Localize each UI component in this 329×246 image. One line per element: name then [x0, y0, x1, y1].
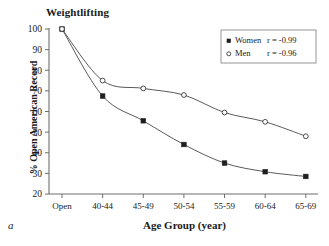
y-axis-ticks: 2030405060708090100 — [28, 24, 49, 199]
y-tick-label: 50 — [33, 128, 43, 138]
x-tick-label: Open — [52, 201, 72, 211]
y-tick-label: 90 — [33, 45, 43, 55]
x-tick-label: 40-44 — [92, 201, 113, 211]
data-point-men-50-54 — [182, 93, 187, 98]
data-point-women-50-54 — [182, 142, 187, 147]
y-tick-label: 40 — [33, 148, 43, 158]
data-point-men-55-59 — [222, 110, 227, 115]
y-tick-label: 80 — [33, 66, 43, 76]
data-point-men-Open — [60, 27, 65, 32]
legend-label-men: Men — [235, 48, 251, 58]
legend-marker-women — [227, 39, 231, 43]
chart-legend: Womenr = -0.99Menr = -0.96 — [221, 30, 316, 63]
plot-area: 2030405060708090100 Open40-4445-4950-545… — [0, 0, 329, 246]
y-tick-label: 60 — [33, 107, 43, 117]
x-tick-label: 45-49 — [133, 201, 154, 211]
y-tick-label: 30 — [33, 169, 43, 179]
data-point-women-60-64 — [263, 169, 268, 174]
x-tick-label: 60-64 — [255, 201, 276, 211]
legend-marker-men — [227, 52, 231, 56]
data-point-women-55-59 — [222, 161, 227, 166]
data-point-women-65-69 — [304, 174, 309, 179]
y-tick-label: 70 — [33, 86, 43, 96]
x-axis-ticks: Open40-4445-4950-5455-5960-6465-69 — [52, 194, 317, 211]
data-point-men-65-69 — [303, 134, 308, 139]
legend-stat-men: r = -0.96 — [267, 48, 297, 58]
x-tick-label: 50-54 — [173, 201, 194, 211]
data-point-men-40-44 — [100, 78, 105, 83]
y-tick-label: 100 — [28, 24, 43, 34]
data-point-women-40-44 — [100, 94, 105, 99]
data-point-women-45-49 — [141, 118, 146, 123]
data-point-men-45-49 — [141, 86, 146, 91]
x-tick-label: 55-59 — [214, 201, 235, 211]
figure-panel: Weightlifting % Open American Record Age… — [0, 0, 329, 246]
data-point-men-60-64 — [263, 119, 268, 124]
legend-stat-women: r = -0.99 — [267, 35, 297, 45]
x-tick-label: 65-69 — [295, 201, 316, 211]
y-tick-label: 20 — [33, 189, 43, 199]
legend-label-women: Women — [235, 35, 262, 45]
